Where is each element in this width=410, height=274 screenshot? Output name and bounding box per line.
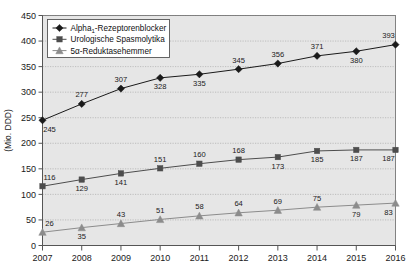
legend-item-label: Urologische Spasmolytika xyxy=(71,35,166,44)
data-point-label: 151 xyxy=(154,155,167,164)
data-point-label: 129 xyxy=(75,184,88,193)
x-axis-tick-label: 2012 xyxy=(229,253,249,263)
x-axis-tick-label: 2011 xyxy=(190,253,209,263)
data-point-label: 69 xyxy=(274,197,282,206)
data-point-label: 185 xyxy=(311,155,324,164)
data-point-label: 26 xyxy=(45,219,53,228)
y-axis-tick-label: 100 xyxy=(21,190,36,200)
data-point-label: 83 xyxy=(384,208,392,217)
y-axis-tick-label: 450 xyxy=(21,11,36,21)
data-point-marker-square xyxy=(79,177,84,182)
data-point-label: 335 xyxy=(193,79,206,88)
data-point-label: 141 xyxy=(115,178,128,187)
data-point-label: 116 xyxy=(43,173,55,182)
x-axis-tick-label: 2014 xyxy=(307,253,327,263)
x-axis-tick-label: 2010 xyxy=(150,253,170,263)
data-point-marker-square xyxy=(275,154,280,159)
data-point-label: 393 xyxy=(382,31,395,40)
legend-item-label: 5α-Reduktasehemmer xyxy=(71,47,152,56)
x-axis-tick-label: 2009 xyxy=(111,253,131,263)
line-chart: 050100150200250300350400450(Mio. DDD)200… xyxy=(0,0,410,274)
y-axis-tick-label: 150 xyxy=(21,164,36,174)
data-point-label: 79 xyxy=(352,210,360,219)
x-axis-tick-label: 2007 xyxy=(32,253,52,263)
y-axis-tick-label: 0 xyxy=(31,241,36,251)
legend: Alpha1-RezeptorenblockerUrologische Spas… xyxy=(48,20,170,58)
y-axis-title: (Mio. DDD) xyxy=(3,109,13,152)
legend-item-0[interactable]: Alpha1-Rezeptorenblocker xyxy=(53,24,167,34)
data-point-marker-square xyxy=(57,37,62,42)
data-point-label: 35 xyxy=(77,232,85,241)
x-axis-tick-label: 2015 xyxy=(346,253,366,263)
data-point-label: 345 xyxy=(232,56,245,65)
data-point-marker-square xyxy=(393,147,398,152)
y-axis-tick-label: 200 xyxy=(21,138,36,148)
y-axis: 050100150200250300350400450 xyxy=(21,11,43,251)
data-point-label: 380 xyxy=(350,56,363,65)
data-point-label: 307 xyxy=(115,75,128,84)
x-axis-tick-label: 2013 xyxy=(268,253,288,263)
x-axis: 2007200820092010201120122013201420152016 xyxy=(32,246,405,264)
data-point-label: 64 xyxy=(234,199,242,208)
x-axis-tick-label: 2016 xyxy=(385,253,405,263)
y-axis-tick-label: 400 xyxy=(21,36,36,46)
data-point-label: 277 xyxy=(75,90,88,99)
data-point-marker-square xyxy=(354,147,359,152)
data-point-label: 51 xyxy=(156,206,164,215)
data-point-label: 187 xyxy=(382,154,395,163)
data-point-label: 187 xyxy=(350,154,363,163)
data-point-label: 356 xyxy=(271,50,284,59)
data-point-label: 75 xyxy=(313,194,321,203)
data-point-marker-square xyxy=(197,161,202,166)
data-point-marker-square xyxy=(40,184,45,189)
data-point-label: 160 xyxy=(193,150,206,159)
data-point-marker-square xyxy=(157,166,162,171)
data-point-label: 245 xyxy=(43,125,56,134)
y-axis-tick-label: 250 xyxy=(21,113,36,123)
legend-item-label: Alpha1-Rezeptorenblocker xyxy=(71,24,167,34)
y-axis-tick-label: 50 xyxy=(26,215,36,225)
data-point-marker-square xyxy=(118,171,123,176)
x-axis-tick-label: 2008 xyxy=(72,253,92,263)
data-point-label: 328 xyxy=(154,82,167,91)
data-point-marker-square xyxy=(314,148,319,153)
y-axis-tick-label: 350 xyxy=(21,62,36,72)
data-point-label: 371 xyxy=(311,42,324,51)
data-point-label: 168 xyxy=(232,146,245,155)
y-axis-tick-label: 300 xyxy=(21,87,36,97)
data-point-label: 43 xyxy=(117,210,125,219)
data-point-label: 173 xyxy=(271,162,284,171)
data-point-label: 58 xyxy=(195,202,203,211)
chart-container: 050100150200250300350400450(Mio. DDD)200… xyxy=(0,0,410,274)
data-point-marker-square xyxy=(236,157,241,162)
